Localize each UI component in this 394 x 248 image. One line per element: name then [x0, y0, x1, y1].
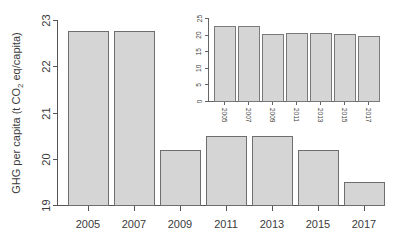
y-axis-title: GHG per capita (t CO2 eq/capita)	[10, 32, 25, 194]
inset-x-tick-label-2007: 2007	[245, 108, 252, 123]
inset-bar-2007	[238, 27, 259, 102]
inset-x-tick-label-2013: 2013	[317, 108, 324, 123]
x-tick-label-2007: 2007	[122, 218, 146, 230]
inset-y-axis-ticks	[205, 19, 209, 102]
inset-x-axis-tick-labels: 2005 2007 2009 2011 2013 2015 2017	[221, 108, 372, 123]
bar-2017	[344, 183, 384, 206]
x-tick-label-2011: 2011	[214, 218, 238, 230]
bar-2013	[252, 137, 292, 206]
inset-y-tick-label-10: 10	[196, 64, 203, 72]
inset-y-tick-label-20: 20	[196, 31, 203, 39]
x-tick-label-2017: 2017	[352, 218, 376, 230]
bar-2007	[114, 32, 154, 206]
inset-y-axis-tick-labels: 0 5 10 15 20 25	[196, 15, 203, 104]
inset-x-tick-label-2005: 2005	[221, 108, 228, 123]
inset-x-tick-label-2009: 2009	[269, 108, 276, 123]
bar-2011	[206, 137, 246, 206]
inset-x-tick-label-2015: 2015	[341, 108, 348, 123]
y-axis-ticks	[53, 21, 58, 206]
svg-text:GHG per capita (t CO2 eq/capit: GHG per capita (t CO2 eq/capita)	[10, 32, 25, 194]
y-axis-tick-labels: 19 20 21 22 23	[40, 14, 52, 211]
inset-x-tick-label-2011: 2011	[293, 108, 300, 122]
x-tick-label-2015: 2015	[306, 218, 330, 230]
inset-bar-2005	[214, 27, 235, 102]
inset-bar-2015	[334, 34, 355, 101]
y-tick-label-22: 22	[40, 60, 52, 72]
inset-y-tick-label-25: 25	[196, 15, 203, 23]
x-tick-label-2005: 2005	[76, 218, 100, 230]
inset-bars	[214, 27, 379, 102]
y-tick-label-19: 19	[40, 199, 52, 211]
x-tick-label-2009: 2009	[168, 218, 192, 230]
x-axis-ticks	[89, 206, 365, 211]
bar-2015	[298, 150, 338, 205]
x-axis-tick-labels: 2005 2007 2009 2011 2013 2015 2017	[76, 218, 376, 230]
y-tick-label-21: 21	[40, 107, 52, 119]
inset-y-tick-label-0: 0	[196, 99, 203, 103]
bar-2005	[68, 32, 108, 206]
chart-svg: 19 20 21 22 23 GHG per capita (t CO2 eq/…	[0, 0, 394, 248]
y-axis-title-prefix: GHG per capita (t CO	[10, 88, 22, 194]
inset-bar-2013	[310, 33, 331, 101]
inset-bar-2011	[286, 33, 307, 101]
x-tick-label-2013: 2013	[260, 218, 284, 230]
y-axis-title-suffix: eq/capita)	[10, 32, 22, 83]
y-tick-label-20: 20	[40, 153, 52, 165]
y-tick-label-23: 23	[40, 14, 52, 26]
inset-bar-2017	[358, 37, 379, 102]
bar-2009	[160, 150, 200, 205]
ghg-per-capita-bar-chart-figure: 19 20 21 22 23 GHG per capita (t CO2 eq/…	[0, 0, 394, 248]
inset-plot: 0 5 10 15 20 25	[196, 15, 380, 123]
inset-bar-2009	[262, 34, 283, 101]
inset-y-tick-label-5: 5	[196, 83, 203, 87]
inset-x-tick-label-2017: 2017	[365, 108, 372, 123]
inset-y-tick-label-15: 15	[196, 48, 203, 56]
